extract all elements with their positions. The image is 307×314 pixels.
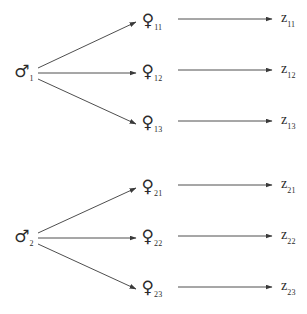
dam-node-22: ♀22 (142, 228, 163, 248)
observation-node-22-subscript: 22 (287, 237, 295, 246)
dam-node-13-glyph: ♀ (142, 112, 154, 132)
mating-design-diagram: ♂1♀11♀12♀13z11z12z13♂2♀21♀22♀23z21z22z23 (0, 0, 307, 314)
dam-node-21-glyph: ♀ (142, 176, 154, 196)
observation-node-12: z12 (281, 60, 296, 79)
sire-node-1-subscript: 1 (30, 74, 34, 83)
dam-node-22-glyph: ♀ (142, 226, 154, 246)
observation-node-22: z22 (281, 226, 296, 245)
edges-group (38, 19, 272, 289)
dam-node-11: ♀11 (142, 12, 163, 32)
dam-node-12: ♀12 (142, 63, 163, 83)
observation-node-13: z13 (281, 111, 296, 130)
observation-node-11-subscript: 11 (287, 20, 295, 29)
dam-node-12-subscript: 12 (154, 74, 162, 83)
dam-node-12-glyph: ♀ (142, 61, 154, 81)
sire-node-2: ♂2 (14, 228, 33, 248)
observation-node-11: z11 (281, 9, 295, 28)
sire-to-dam-edge-1-3 (38, 79, 136, 124)
observation-node-23: z23 (281, 277, 296, 296)
observation-node-21: z21 (281, 175, 296, 194)
dam-node-13: ♀13 (142, 114, 163, 134)
dam-node-13-subscript: 13 (154, 125, 162, 134)
sire-node-2-glyph: ♂ (14, 226, 29, 246)
dam-node-11-subscript: 11 (154, 23, 162, 32)
dam-node-21-subscript: 21 (154, 189, 162, 198)
observation-node-21-subscript: 21 (287, 186, 295, 195)
sire-node-1-glyph: ♂ (14, 61, 29, 81)
observation-node-23-subscript: 23 (287, 288, 295, 297)
sire-to-dam-edge-2-3 (38, 244, 136, 289)
dam-node-23: ♀23 (142, 279, 163, 299)
dam-node-23-glyph: ♀ (142, 277, 154, 297)
sire-node-2-subscript: 2 (30, 239, 34, 248)
edge-layer (0, 0, 307, 314)
dam-node-22-subscript: 22 (154, 239, 162, 248)
dam-node-23-subscript: 23 (154, 290, 162, 299)
sire-to-dam-edge-2-1 (38, 188, 136, 233)
sire-to-dam-edge-1-1 (38, 22, 136, 68)
observation-node-13-subscript: 13 (287, 122, 295, 131)
dam-node-21: ♀21 (142, 178, 163, 198)
sire-node-1: ♂1 (14, 63, 33, 83)
dam-node-11-glyph: ♀ (142, 10, 154, 30)
observation-node-12-subscript: 12 (287, 71, 295, 80)
